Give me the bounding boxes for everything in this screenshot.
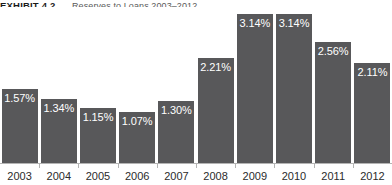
x-tick-label-2005: 2005 [78,169,117,183]
x-axis-tick [314,163,315,168]
x-axis-tick [39,163,40,168]
bar-value-label: 1.34% [41,102,77,114]
bar-slot: 1.34% [41,0,77,163]
bar-value-label: 2.56% [315,45,351,57]
x-tick-label-2007: 2007 [157,169,196,183]
bar-2004: 1.34% [41,99,77,163]
bar-value-label: 2.11% [354,66,390,78]
x-axis-tick [78,163,79,168]
bar-2011: 2.56% [315,42,351,163]
bar-2010: 3.14% [276,14,312,163]
x-axis-tick [196,163,197,168]
x-axis-tick [157,163,158,168]
x-tick-label-2009: 2009 [235,169,274,183]
x-axis-tick [353,163,354,168]
bar-2003: 1.57% [2,89,38,164]
bar-value-label: 1.57% [2,92,38,104]
x-axis-tick-labels: 2003200420052006200720082009201020112012 [0,169,392,185]
bar-slot: 2.11% [354,0,390,163]
x-tick-label-2010: 2010 [274,169,313,183]
bar-slot: 3.14% [237,0,273,163]
bar-slot: 1.15% [80,0,116,163]
bar-slot: 1.57% [2,0,38,163]
bar-value-label: 1.07% [119,115,155,127]
bar-2005: 1.15% [80,108,116,163]
x-axis-tick [235,163,236,168]
x-tick-label-2011: 2011 [314,169,353,183]
bar-2006: 1.07% [119,112,155,163]
x-tick-label-2012: 2012 [353,169,392,183]
x-tick-label-2004: 2004 [39,169,78,183]
bar-2008: 2.21% [198,58,234,163]
bar-slot: 1.07% [119,0,155,163]
bar-value-label: 2.21% [198,61,234,73]
bar-2009: 3.14% [237,14,273,163]
bar-value-label: 1.15% [80,111,116,123]
bar-slot: 1.30% [158,0,194,163]
bar-2012: 2.11% [354,63,390,163]
chart-figure: EXHIBIT 4.2 Reserves to Loans 2003–2012 … [0,0,392,185]
bar-plot-area: 1.57%1.34%1.15%1.07%1.30%2.21%3.14%3.14%… [0,0,392,163]
bar-2007: 1.30% [158,101,194,163]
bar-value-label: 3.14% [276,17,312,29]
x-tick-label-2006: 2006 [118,169,157,183]
bar-value-label: 3.14% [237,17,273,29]
bar-slot: 2.21% [198,0,234,163]
x-tick-label-2003: 2003 [0,169,39,183]
x-axis-tick [118,163,119,168]
x-tick-label-2008: 2008 [196,169,235,183]
x-axis-tick [274,163,275,168]
bar-slot: 3.14% [276,0,312,163]
bar-slot: 2.56% [315,0,351,163]
bar-value-label: 1.30% [158,104,194,116]
